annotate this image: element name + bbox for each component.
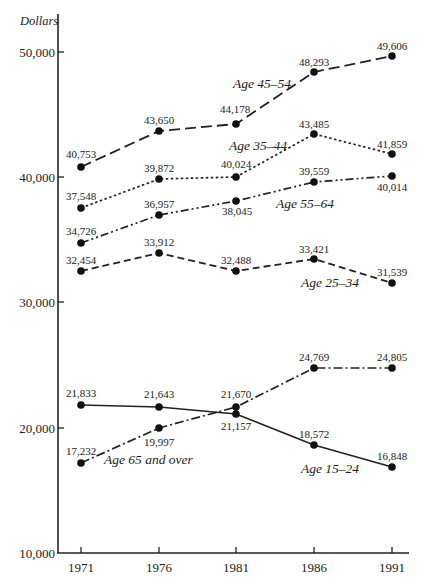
y-axis-title: Dollars (19, 14, 58, 28)
series-label: Age 45–54 (232, 76, 291, 91)
point-label: 40,024 (221, 158, 252, 170)
point-label: 31,539 (377, 266, 408, 278)
point-label: 32,454 (66, 254, 97, 266)
point-label: 43,650 (144, 114, 175, 126)
point-label: 18,572 (299, 428, 329, 440)
x-tick-label: 1986 (301, 560, 328, 575)
point-label: 19,997 (144, 436, 175, 448)
point-label: 16,848 (377, 450, 408, 462)
series-label: Age 15–24 (300, 461, 359, 476)
point-label: 34,726 (66, 225, 97, 237)
series-age-25-34: 32,454 33,912 32,488 33,421 31,539 Age 2… (66, 236, 408, 290)
point-label: 33,421 (299, 243, 329, 255)
point-label: 24,769 (299, 351, 330, 363)
point-label: 41,859 (377, 138, 408, 150)
income-by-age-line-chart: Dollars 50,000 40,000 30,000 20,000 10,0… (0, 0, 425, 583)
point-label: 40,753 (66, 148, 97, 160)
point-label: 32,488 (221, 254, 252, 266)
point-label: 21,833 (66, 387, 97, 399)
point-label: 24,805 (377, 351, 408, 363)
x-tick-label: 1981 (223, 560, 249, 575)
point-label: 38,045 (222, 205, 253, 217)
y-tick-label: 20,000 (19, 421, 55, 436)
point-label: 21,643 (144, 388, 175, 400)
series-label: Age 65 and over (103, 452, 194, 467)
point-label: 36,957 (144, 198, 175, 210)
point-label: 21,670 (221, 388, 252, 400)
y-tick-label: 30,000 (19, 295, 55, 310)
series-label: Age 35–44 (228, 138, 287, 153)
series-age-65-and-over: 17,232 19,997 21,670 24,769 24,805 Age 6… (66, 351, 408, 467)
y-tick-label: 40,000 (19, 170, 55, 185)
point-label: 43,485 (299, 118, 330, 130)
point-label: 17,232 (66, 445, 96, 457)
point-label: 39,872 (144, 162, 174, 174)
point-label: 44,178 (220, 103, 251, 115)
point-label: 39,559 (299, 165, 330, 177)
point-label: 33,912 (144, 236, 174, 248)
x-tick-label: 1976 (146, 560, 173, 575)
point-label: 40,014 (377, 181, 408, 193)
y-tick-label: 10,000 (19, 546, 55, 561)
x-tick-label: 1991 (379, 560, 405, 575)
y-tick-label: 50,000 (19, 45, 55, 60)
x-tick-label: 1971 (68, 560, 94, 575)
x-ticks: 1971 1976 1981 1986 1991 (68, 547, 405, 575)
point-label: 48,293 (299, 56, 330, 68)
series-label: Age 55–64 (275, 196, 334, 211)
series-label: Age 25–34 (300, 275, 359, 290)
point-label: 37,548 (66, 190, 97, 202)
point-label: 49,606 (377, 40, 408, 52)
point-label: 21,157 (221, 420, 252, 432)
